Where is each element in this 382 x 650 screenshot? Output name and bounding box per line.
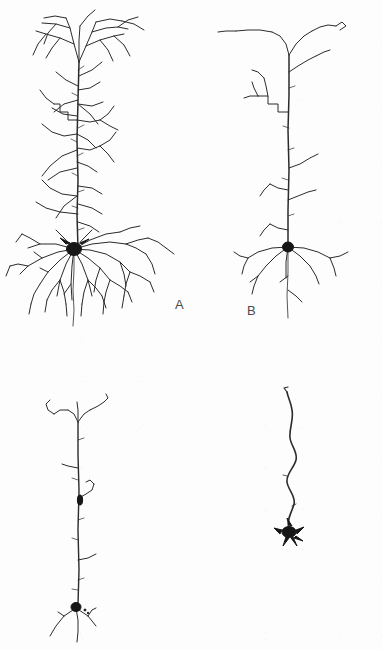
- panel-c-drawing: [0, 380, 200, 650]
- soma-b: [283, 242, 294, 252]
- panel-b-drawing: [200, 0, 382, 330]
- panel-b: B: [200, 0, 382, 330]
- panel-label-a: A: [175, 298, 184, 311]
- panel-label-b: B: [247, 304, 256, 317]
- panel-d-drawing: [200, 380, 382, 650]
- soma-c: [71, 603, 81, 612]
- apical-varicosity-c: [77, 495, 82, 505]
- neuron-morphology-figure: A: [0, 0, 382, 650]
- panel-a: A: [0, 0, 200, 330]
- soma-a: [67, 243, 82, 256]
- soma-d: [274, 518, 304, 546]
- panel-c: C: [0, 380, 200, 650]
- panel-d: D: [200, 380, 382, 650]
- panel-a-drawing: [0, 0, 200, 330]
